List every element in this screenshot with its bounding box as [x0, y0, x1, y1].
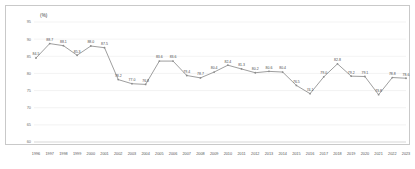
data-label-2016: 74.1 — [307, 88, 314, 92]
data-label-2010: 82.4 — [224, 60, 231, 64]
data-point-2008 — [200, 77, 202, 79]
data-point-labels: 84.588.788.185.388.087.578.277.076.883.6… — [33, 38, 410, 93]
data-point-2003 — [131, 83, 133, 85]
data-point-2004 — [145, 84, 147, 86]
data-label-2019: 79.2 — [348, 71, 355, 75]
data-point-2021 — [378, 94, 380, 96]
y-tick-80: 80 — [27, 71, 32, 76]
x-tick-2019: 2019 — [347, 152, 355, 156]
y-tick-75: 75 — [27, 88, 31, 93]
data-point-2002 — [117, 79, 119, 81]
x-tick-2012: 2012 — [251, 152, 259, 156]
data-point-2015 — [295, 85, 297, 87]
data-point-2010 — [227, 64, 229, 66]
x-tick-2002: 2002 — [114, 152, 122, 156]
data-label-2000: 88.0 — [87, 40, 94, 44]
data-label-2008: 78.7 — [197, 72, 204, 76]
data-label-2002: 78.2 — [115, 74, 122, 78]
data-label-2007: 79.4 — [183, 70, 190, 74]
data-label-2015: 76.5 — [293, 80, 300, 84]
data-label-1999: 85.3 — [74, 50, 81, 54]
data-label-2020: 79.1 — [361, 71, 368, 75]
data-label-2017: 79.0 — [320, 71, 327, 75]
y-tick-95: 95 — [27, 19, 31, 24]
data-label-2006: 83.6 — [170, 55, 177, 59]
data-label-2014: 80.4 — [279, 66, 286, 70]
data-label-2022: 78.8 — [389, 72, 396, 76]
data-point-1996 — [35, 57, 37, 59]
data-label-2023: 78.6 — [403, 73, 410, 77]
x-tick-2018: 2018 — [333, 152, 341, 156]
data-point-2009 — [213, 71, 215, 73]
x-tick-2010: 2010 — [224, 152, 232, 156]
data-point-2018 — [337, 63, 339, 65]
data-point-2005 — [158, 60, 160, 62]
data-point-2017 — [323, 76, 325, 78]
data-point-2011 — [241, 68, 243, 70]
x-tick-2000: 2000 — [87, 152, 95, 156]
data-label-2005: 83.6 — [156, 55, 163, 59]
y-tick-85: 85 — [27, 54, 31, 59]
data-point-2022 — [391, 77, 393, 79]
y-axis-tick-labels: 6065707580859095 — [27, 19, 32, 144]
y-tick-65: 65 — [27, 122, 31, 127]
x-tick-2023: 2023 — [402, 152, 410, 156]
data-label-2021: 73.8 — [375, 89, 382, 93]
data-point-2013 — [268, 70, 270, 72]
x-tick-1999: 1999 — [73, 152, 81, 156]
data-point-2001 — [104, 47, 106, 49]
data-point-markers — [35, 43, 407, 96]
data-label-2004: 76.8 — [142, 79, 149, 83]
x-tick-2013: 2013 — [265, 152, 273, 156]
data-point-2007 — [186, 75, 188, 77]
line-chart-canvas: 6065707580859095 19961997199819992000200… — [0, 0, 415, 169]
data-label-2013: 80.6 — [266, 66, 273, 70]
x-tick-2011: 2011 — [237, 152, 245, 156]
x-tick-2005: 2005 — [155, 152, 163, 156]
x-tick-2006: 2006 — [169, 152, 177, 156]
data-label-2009: 80.4 — [211, 66, 218, 70]
x-tick-2022: 2022 — [388, 152, 396, 156]
x-tick-2001: 2001 — [100, 152, 108, 156]
data-point-2020 — [364, 76, 366, 78]
x-tick-2004: 2004 — [141, 152, 149, 156]
series-line — [36, 44, 406, 95]
data-series-line — [36, 44, 406, 95]
x-tick-2014: 2014 — [278, 152, 286, 156]
data-label-2011: 81.3 — [238, 63, 245, 67]
x-axis-tick-labels: 1996199719981999200020012002200320042005… — [32, 152, 410, 156]
x-tick-2020: 2020 — [361, 152, 369, 156]
data-point-1997 — [49, 43, 51, 45]
y-tick-90: 90 — [27, 37, 32, 42]
data-label-1997: 88.7 — [46, 38, 53, 42]
data-point-2012 — [254, 72, 256, 74]
x-tick-1996: 1996 — [32, 152, 40, 156]
x-tick-2021: 2021 — [374, 152, 382, 156]
data-point-2006 — [172, 60, 174, 62]
data-label-2012: 80.2 — [252, 67, 259, 71]
x-tick-2008: 2008 — [196, 152, 204, 156]
data-point-1998 — [63, 45, 65, 47]
data-point-2019 — [350, 75, 352, 77]
x-tick-2015: 2015 — [292, 152, 300, 156]
data-label-1996: 84.5 — [33, 52, 40, 56]
data-label-2003: 77.0 — [129, 78, 136, 82]
y-tick-70: 70 — [27, 105, 32, 110]
x-tick-1998: 1998 — [59, 152, 67, 156]
x-tick-1997: 1997 — [45, 152, 53, 156]
x-tick-2017: 2017 — [320, 152, 328, 156]
data-point-2014 — [282, 71, 284, 73]
x-tick-2007: 2007 — [183, 152, 191, 156]
x-tick-2003: 2003 — [128, 152, 136, 156]
data-point-1999 — [76, 54, 78, 56]
x-tick-2016: 2016 — [306, 152, 314, 156]
data-label-2001: 87.5 — [101, 42, 108, 46]
y-tick-60: 60 — [27, 139, 32, 144]
data-label-1998: 88.1 — [60, 40, 67, 44]
data-point-2016 — [309, 93, 311, 95]
data-label-2018: 82.8 — [334, 58, 341, 62]
data-point-2023 — [405, 77, 407, 79]
x-tick-2009: 2009 — [210, 152, 218, 156]
data-point-2000 — [90, 45, 92, 47]
chart-card: (%) 6065707580859095 1996199719981999200… — [0, 0, 415, 169]
